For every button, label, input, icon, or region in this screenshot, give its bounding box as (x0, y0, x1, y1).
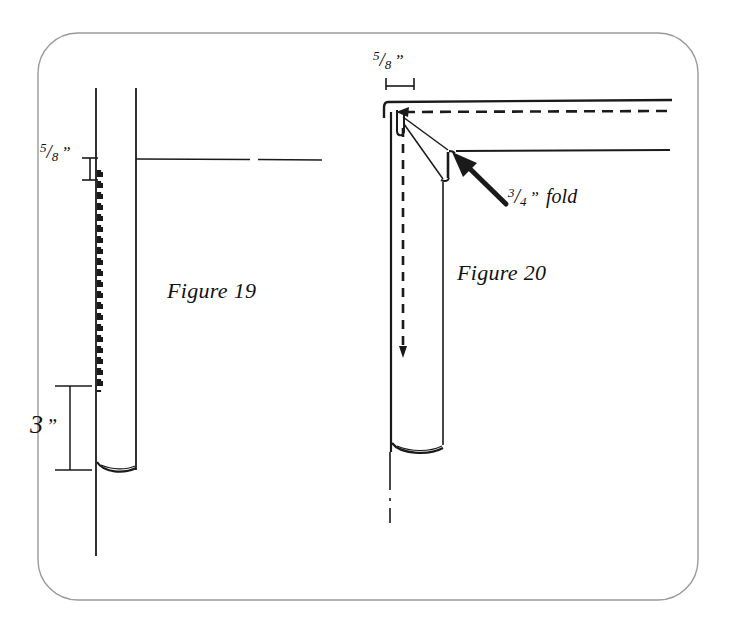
fig19-dimension-3in-label: 3” (30, 412, 57, 438)
fig20-tube-opening (392, 443, 443, 453)
diagram-page: 5/8” 3” Figure 19 5/8” 3/4”fold Figure 2… (0, 0, 735, 639)
fig20-fold-diagonal-upper (403, 117, 448, 150)
page-frame (38, 33, 698, 600)
inch-symbol: ” (43, 415, 57, 437)
figure-19-caption: Figure 19 (167, 280, 256, 302)
fraction-five-eighths: 5/8 (40, 142, 58, 161)
fig19-dimension-3in (55, 386, 92, 470)
fig19-horizontal-reference-line-continued (258, 160, 322, 161)
inch-symbol: ” (391, 51, 403, 70)
figure-19-drawing (55, 88, 322, 556)
fig20-top-dashed-foldline (404, 111, 668, 112)
figure-20-drawing (384, 78, 672, 523)
fig19-dimension-58-label: 5/8” (40, 142, 71, 161)
inch-symbol: ” (527, 188, 539, 207)
fig20-fold-callout-label: 3/4”fold (508, 186, 577, 206)
fig20-fold-callout-arrow (452, 152, 506, 204)
fig20-top-outer-edge (388, 100, 672, 102)
fig20-dimension-58 (386, 78, 414, 90)
figure-20-caption: Figure 20 (457, 262, 546, 284)
fig20-fold-edge-horizontal (456, 150, 670, 151)
fig20-dimension-58-label: 5/8” (373, 50, 404, 69)
fraction-three-quarters: 3/4 (508, 186, 527, 206)
inch-symbol: ” (58, 143, 70, 162)
fig20-vertical-dashed-arrowhead (399, 346, 407, 358)
fraction-five-eighths: 5/8 (373, 50, 391, 69)
dimension-value: 3 (30, 410, 43, 439)
diagram-artboard (0, 0, 735, 639)
fig19-tube-opening (97, 462, 136, 472)
fig19-horizontal-reference-line (136, 159, 250, 160)
fig20-outer-corner (384, 102, 388, 118)
fold-word: fold (539, 185, 577, 207)
